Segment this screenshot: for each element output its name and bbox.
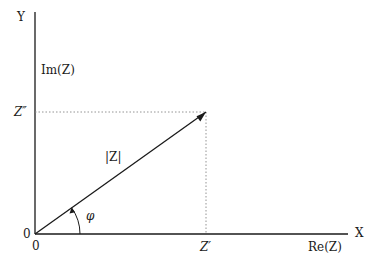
imag-axis-label: Im(Z) <box>41 64 75 76</box>
x-axis-label: X <box>355 227 364 239</box>
diagram-graphics <box>0 0 379 263</box>
magnitude-label: |Z| <box>105 151 121 163</box>
impedance-diagram: Y Im(Z) Z″ |Z| φ 0 0 Z′ Re(Z) X <box>0 0 379 263</box>
origin-y-label: 0 <box>23 228 31 240</box>
vector-arrowhead-icon <box>197 112 207 122</box>
angle-label: φ <box>86 210 94 222</box>
real-component-label: Z′ <box>200 241 211 253</box>
y-axis-label: Y <box>17 11 25 23</box>
impedance-vector <box>35 112 206 234</box>
real-axis-label: Re(Z) <box>308 241 342 253</box>
imag-component-label: Z″ <box>14 106 27 118</box>
origin-x-label: 0 <box>32 240 40 252</box>
